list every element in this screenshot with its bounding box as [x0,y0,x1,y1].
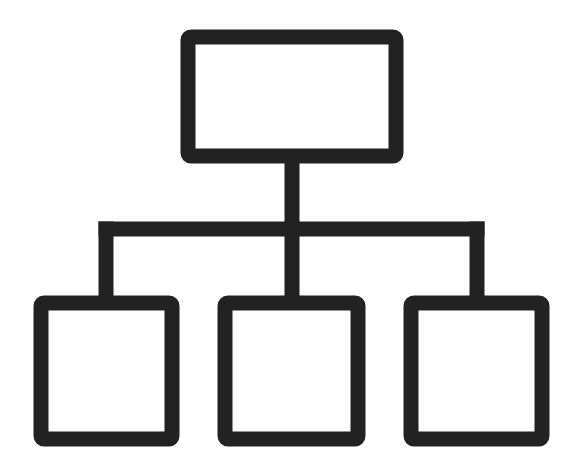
node-box-child-right [411,303,542,439]
node-box-child-left [41,303,172,439]
node-box-root [188,37,396,156]
org-chart-icon [0,0,580,471]
node-box-child-middle [225,303,358,439]
connector-lines [106,156,477,303]
